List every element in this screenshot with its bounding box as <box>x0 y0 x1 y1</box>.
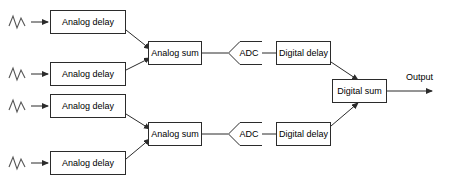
digital-sum-block[interactable]: Digital sum <box>332 79 387 103</box>
analog-delay-label: Analog delay <box>62 70 114 79</box>
analog-sum-label: Analog sum <box>151 49 199 58</box>
analog-delay-label: Analog delay <box>62 102 114 111</box>
digital-delay-label: Digital delay <box>279 49 328 58</box>
adc-block-top[interactable]: ADC <box>228 41 262 65</box>
sine-wave-icon <box>8 64 32 84</box>
analog-delay-block-4[interactable]: Analog delay <box>50 151 126 175</box>
analog-sum-label: Analog sum <box>151 130 199 139</box>
analog-delay-label: Analog delay <box>62 159 114 168</box>
digital-delay-block-bottom[interactable]: Digital delay <box>276 122 331 146</box>
sine-wave-icon <box>8 96 32 116</box>
analog-delay-block-1[interactable]: Analog delay <box>50 10 126 34</box>
adc-block-bottom[interactable]: ADC <box>228 122 262 146</box>
digital-sum-label: Digital sum <box>337 87 382 96</box>
analog-delay-block-2[interactable]: Analog delay <box>50 62 126 86</box>
adc-label: ADC <box>228 41 262 65</box>
sine-wave-icon <box>8 12 32 32</box>
sine-wave-icon <box>8 153 32 173</box>
adc-label: ADC <box>228 122 262 146</box>
output-label: Output <box>406 72 433 82</box>
digital-delay-label: Digital delay <box>279 130 328 139</box>
block-diagram: Analog delay Analog delay Analog delay A… <box>0 0 450 185</box>
analog-delay-label: Analog delay <box>62 18 114 27</box>
analog-sum-block-bottom[interactable]: Analog sum <box>148 122 202 146</box>
digital-delay-block-top[interactable]: Digital delay <box>276 41 331 65</box>
analog-delay-block-3[interactable]: Analog delay <box>50 94 126 118</box>
analog-sum-block-top[interactable]: Analog sum <box>148 41 202 65</box>
